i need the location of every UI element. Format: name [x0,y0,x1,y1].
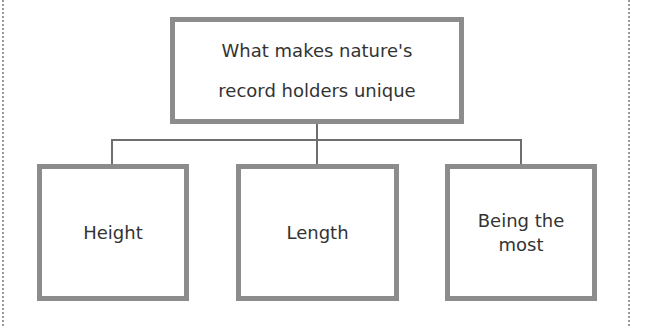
branch-right [520,139,522,165]
root-box: What makes nature's record holders uniqu… [170,17,464,124]
branch-left [111,139,113,165]
child-box-length: Length [236,164,399,301]
child-label-height: Height [83,221,143,245]
child-label-being-the-most: Being the most [466,209,576,257]
root-connector [316,124,318,140]
child-box-being-the-most: Being the most [445,164,597,301]
left-dotted-border [2,0,4,326]
child-label-length: Length [286,221,348,245]
right-dotted-border [628,0,630,326]
root-label: What makes nature's record holders uniqu… [197,31,437,111]
child-box-height: Height [37,164,189,301]
branch-middle [316,139,318,165]
